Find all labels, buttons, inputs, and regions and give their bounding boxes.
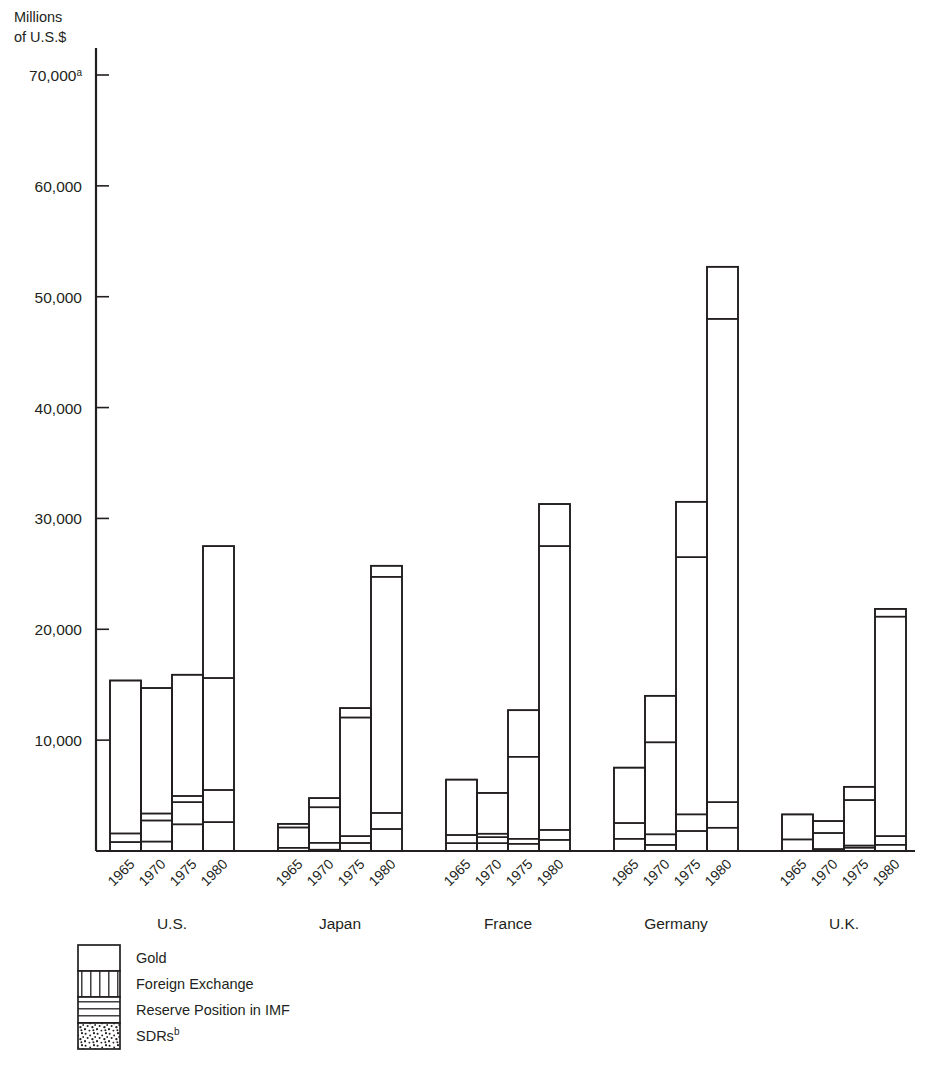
segment-gold[interactable] [844,787,875,800]
bar-1980[interactable] [707,267,738,851]
segment-reserve-position-imf[interactable] [645,834,676,845]
segment-gold[interactable] [309,798,340,807]
segment-gold[interactable] [645,696,676,743]
segment-foreign-exchange[interactable] [676,557,707,814]
y-tick-label-40000: 40,000 [35,400,83,417]
bar-1970[interactable] [813,821,844,851]
segment-gold[interactable] [371,566,402,577]
bar-1980[interactable] [371,566,402,851]
x-tick-label-1980: 1980 [869,856,902,889]
segment-gold[interactable] [172,675,203,796]
group-label-germany: Germany [644,915,708,932]
segment-foreign-exchange[interactable] [614,823,645,839]
bar-1980[interactable] [539,504,570,851]
bar-1965[interactable] [782,814,813,851]
bar-1965[interactable] [446,780,477,851]
segment-reserve-position-imf[interactable] [371,813,402,829]
segment-foreign-exchange[interactable] [782,839,813,851]
bar-1965[interactable] [278,824,309,851]
segment-reserve-position-imf[interactable] [614,839,645,851]
segment-reserve-position-imf[interactable] [172,802,203,824]
bar-outline [203,546,234,851]
segment-reserve-position-imf[interactable] [875,836,906,845]
segment-foreign-exchange[interactable] [645,742,676,834]
y-axis-title-line1: Millions [14,9,62,25]
y-tick-label-60000: 60,000 [35,178,83,195]
bars-layer [110,267,906,851]
segment-foreign-exchange[interactable] [141,814,172,821]
x-tick-label-1975: 1975 [838,856,871,889]
segment-sdrs[interactable] [477,843,508,851]
segment-gold[interactable] [614,768,645,823]
segment-foreign-exchange[interactable] [813,833,844,849]
segment-reserve-position-imf[interactable] [203,790,234,822]
bar-1970[interactable] [309,798,340,851]
segment-gold[interactable] [477,793,508,834]
segment-reserve-position-imf[interactable] [707,802,738,827]
segment-sdrs[interactable] [539,840,570,851]
segment-foreign-exchange[interactable] [446,835,477,843]
bar-outline [110,681,141,851]
chart-page: Millions of U.S.$ 10,00020,00030,00040,0… [0,0,926,1078]
segment-gold[interactable] [446,780,477,835]
segment-gold[interactable] [676,502,707,557]
segment-gold[interactable] [875,609,906,617]
segment-reserve-position-imf[interactable] [446,843,477,851]
segment-foreign-exchange[interactable] [844,800,875,845]
segment-gold[interactable] [141,688,172,813]
segment-reserve-position-imf[interactable] [340,836,371,843]
bar-group-us [110,546,234,851]
bar-1980[interactable] [875,609,906,851]
segment-sdrs[interactable] [707,828,738,851]
legend-swatch-reserve-position-in-imf [78,997,120,1023]
segment-sdrs[interactable] [203,822,234,851]
bar-outline [340,708,371,851]
bar-1970[interactable] [141,688,172,851]
segment-reserve-position-imf[interactable] [676,814,707,831]
bar-1980[interactable] [203,546,234,851]
bar-1965[interactable] [110,681,141,851]
segment-reserve-position-imf[interactable] [539,830,570,840]
segment-reserve-position-imf[interactable] [309,843,340,850]
bar-1970[interactable] [645,696,676,851]
bar-outline [371,566,402,851]
bar-1975[interactable] [172,675,203,851]
segment-reserve-position-imf[interactable] [141,821,172,842]
segment-sdrs[interactable] [172,824,203,851]
segment-gold[interactable] [813,821,844,833]
segment-foreign-exchange[interactable] [340,718,371,837]
y-tick-label-20000: 20,000 [35,621,83,638]
segment-foreign-exchange[interactable] [309,807,340,842]
bar-1975[interactable] [844,787,875,851]
segment-foreign-exchange[interactable] [278,827,309,847]
segment-gold[interactable] [782,814,813,839]
segment-sdrs[interactable] [340,843,371,851]
x-tick-label-1980: 1980 [197,856,230,889]
segment-gold[interactable] [110,681,141,834]
group-label-us: U.S. [157,915,187,932]
bar-1975[interactable] [676,502,707,851]
segment-foreign-exchange[interactable] [203,678,234,790]
segment-foreign-exchange[interactable] [508,757,539,839]
segment-foreign-exchange[interactable] [110,833,141,842]
bar-1970[interactable] [477,793,508,851]
segment-gold[interactable] [203,546,234,678]
segment-foreign-exchange[interactable] [875,617,906,836]
segment-gold[interactable] [508,710,539,757]
segment-sdrs[interactable] [371,829,402,851]
segment-gold[interactable] [340,708,371,717]
segment-sdrs[interactable] [676,831,707,851]
segment-foreign-exchange[interactable] [539,546,570,830]
segment-sdrs[interactable] [141,842,172,851]
x-tick-label-1970: 1970 [303,856,336,889]
segment-foreign-exchange[interactable] [707,319,738,802]
segment-foreign-exchange[interactable] [172,796,203,802]
segment-foreign-exchange[interactable] [371,577,402,813]
segment-gold[interactable] [539,504,570,546]
bar-1975[interactable] [340,708,371,851]
segment-reserve-position-imf[interactable] [110,842,141,851]
bar-1975[interactable] [508,710,539,851]
segment-gold[interactable] [707,267,738,319]
segment-reserve-position-imf[interactable] [477,837,508,843]
bar-1965[interactable] [614,768,645,851]
